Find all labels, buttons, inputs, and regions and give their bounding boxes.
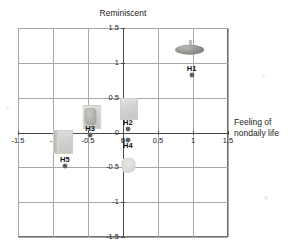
point-marker: [190, 73, 194, 77]
scatter-plot: Reminiscent Feeling of nondaily life -1.…: [0, 0, 293, 251]
x-tick-label: 1.5: [223, 137, 233, 145]
thumb-dome: [175, 45, 205, 55]
y-tick-label: 0.5: [101, 94, 119, 102]
y-tick-label: 0: [101, 129, 119, 137]
y-tick-label: -0.5: [101, 163, 119, 171]
x-axis-title-line2: nondaily life: [234, 128, 279, 139]
point-marker: [63, 164, 67, 168]
data-point-h4[interactable]: H4: [126, 138, 130, 142]
point-label: H5: [60, 156, 70, 164]
y-tick-mark: [121, 28, 125, 29]
y-tick-label: -1: [101, 198, 119, 206]
data-point-h1[interactable]: H1: [190, 73, 194, 77]
data-point-h3[interactable]: H3: [88, 133, 92, 137]
point-label: H4: [123, 142, 133, 150]
scan-speckle-icon: [6, 106, 9, 109]
x-axis-title: Feeling of nondaily life: [234, 117, 279, 138]
x-tick-mark: [228, 131, 229, 135]
x-tick-mark: [193, 131, 194, 135]
x-axis-title-line1: Feeling of: [234, 117, 279, 128]
point-label: H2: [123, 119, 133, 127]
point-thumbnail-h2: [120, 98, 138, 120]
y-tick-mark: [121, 237, 125, 238]
thumb-blob: [84, 108, 96, 124]
x-tick-label: 0.5: [153, 137, 163, 145]
thumb-surface: [120, 98, 138, 120]
scan-speckle-icon: [264, 196, 268, 200]
point-marker: [88, 133, 92, 137]
data-point-h5[interactable]: H5: [63, 164, 67, 168]
point-thumbnail-h1: [173, 39, 207, 59]
thumb-blob: [122, 158, 136, 172]
point-thumbnail-h5: [53, 130, 73, 154]
point-label: H1: [187, 65, 197, 73]
y-axis-title: Reminiscent: [100, 8, 147, 18]
x-tick-label: -0.5: [82, 137, 95, 145]
y-tick-mark: [121, 202, 125, 203]
point-thumbnail-h4: [119, 155, 138, 175]
x-axis-line: [18, 133, 228, 134]
y-tick-mark: [121, 63, 125, 64]
data-point-h2[interactable]: H2: [126, 127, 130, 131]
point-marker: [126, 127, 130, 131]
y-tick-label: -1.5: [101, 233, 119, 241]
point-label: H3: [85, 125, 95, 133]
x-tick-mark: [18, 131, 19, 135]
thumb-stripe: [54, 131, 59, 152]
x-tick-mark: [158, 131, 159, 135]
y-tick-label: 1.5: [101, 24, 119, 32]
y-tick-label: 1: [101, 59, 119, 67]
x-tick-label: -1.5: [12, 137, 25, 145]
scan-speckle-icon: [262, 74, 265, 77]
x-tick-label: 1: [191, 137, 195, 145]
